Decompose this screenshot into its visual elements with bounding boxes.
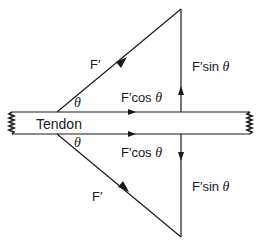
lower-force-label: F′ xyxy=(92,190,102,203)
upper-sin-prefix: F′sin xyxy=(192,59,223,74)
lower-cos-theta: θ xyxy=(155,145,162,160)
tendon-left-cut-icon xyxy=(9,112,14,134)
lower-force-arrow-icon xyxy=(118,181,129,192)
lower-cos-arrow-icon xyxy=(128,131,136,137)
upper-sin-theta: θ xyxy=(223,59,230,74)
lower-sin-arrow-icon xyxy=(178,152,184,161)
lower-sin-label: F′sin θ xyxy=(192,180,230,194)
lower-cos-prefix: F′cos xyxy=(121,145,155,160)
tendon-right-cut-icon xyxy=(247,112,252,134)
lower-theta-label: θ xyxy=(74,136,81,150)
upper-cos-theta: θ xyxy=(155,90,162,105)
upper-cos-arrow-icon xyxy=(128,109,136,115)
upper-theta-label: θ xyxy=(74,96,81,110)
upper-cos-label: F′cos θ xyxy=(121,91,162,105)
upper-sin-label: F′sin θ xyxy=(192,60,230,74)
upper-sin-arrow-icon xyxy=(178,86,184,95)
lower-sin-prefix: F′sin xyxy=(192,179,223,194)
lower-cos-label: F′cos θ xyxy=(121,146,162,160)
upper-force-label: F′ xyxy=(90,58,100,71)
upper-cos-prefix: F′cos xyxy=(121,90,155,105)
lower-sin-theta: θ xyxy=(223,179,230,194)
tendon-label: Tendon xyxy=(36,117,82,131)
